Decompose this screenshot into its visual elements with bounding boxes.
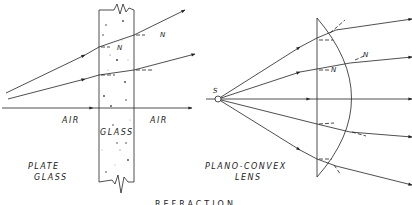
glass-plate	[99, 4, 134, 193]
lens-caption-line2: LENS	[235, 173, 262, 183]
lens-normal-label-2: N	[331, 65, 337, 75]
source-label: S	[213, 86, 218, 96]
lens-rays	[221, 19, 412, 185]
lens-normal-label-1: N	[363, 50, 369, 60]
right-medium-label: AIR	[150, 116, 168, 126]
lens-source	[206, 96, 221, 102]
plate-normal-label-1: N	[160, 30, 166, 40]
diagram-title: REFRACTION	[155, 200, 236, 205]
left-medium-label: AIR	[62, 116, 80, 126]
plano-convex-lens	[317, 18, 352, 177]
plate-caption-line2: GLASS	[34, 173, 68, 183]
plate-caption-line1: PLATE	[28, 162, 60, 172]
glass-medium-label: GLASS	[100, 128, 134, 138]
plate-ray-upper	[6, 10, 185, 93]
lens-caption-line1: PLANO-CONVEX	[205, 162, 287, 172]
plate-normal-label-2: N	[117, 43, 123, 53]
